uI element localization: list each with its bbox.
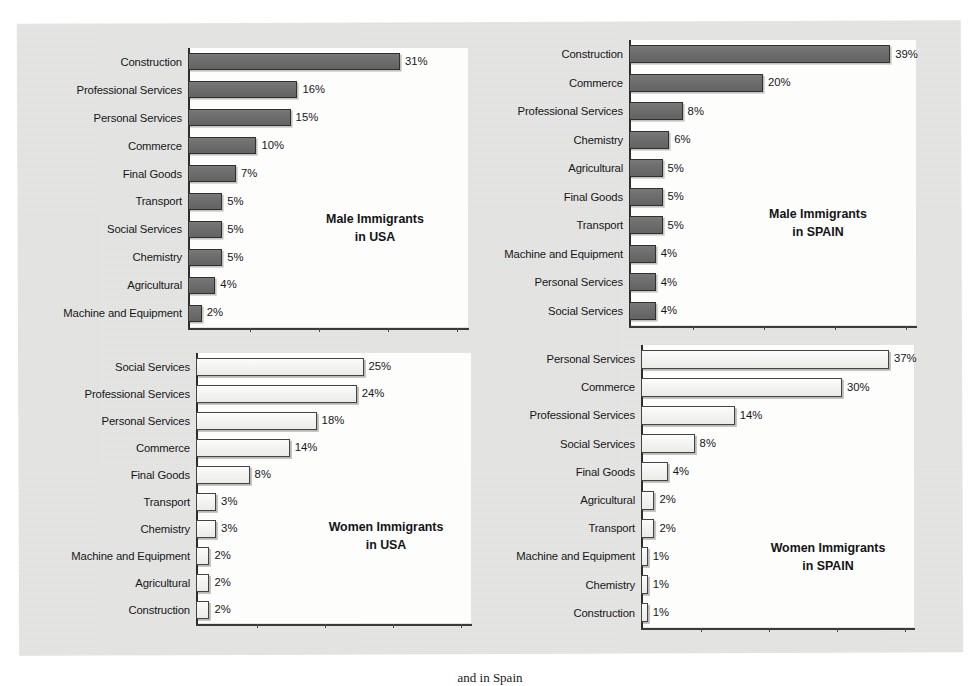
x-axis-line xyxy=(188,328,469,330)
value-label: 2% xyxy=(214,550,230,561)
bar xyxy=(188,109,291,126)
value-label: 3% xyxy=(221,496,237,507)
bar xyxy=(196,385,357,403)
annotation-line-2: in SPAIN xyxy=(743,224,893,242)
category-label: Professional Services xyxy=(50,389,190,400)
bar xyxy=(196,412,317,430)
category-label: Transport xyxy=(479,220,623,231)
bar xyxy=(629,131,669,149)
x-axis-tick xyxy=(764,326,765,330)
bar-and-value: 16% xyxy=(188,81,325,98)
bar xyxy=(641,603,648,622)
bar-row: Professional Services16% xyxy=(188,76,468,104)
bar-and-value: 2% xyxy=(188,305,223,322)
x-axis-tick xyxy=(769,628,770,632)
x-axis-tick xyxy=(835,326,836,330)
bar-and-value: 6% xyxy=(629,131,691,149)
bar xyxy=(629,245,656,263)
bar-row: Personal Services37% xyxy=(641,345,914,373)
bar-and-value: 30% xyxy=(641,378,870,397)
category-label: Personal Services xyxy=(50,113,182,124)
bar xyxy=(188,165,236,182)
chart-male-immigrants-usa: Construction31%Professional Services16%P… xyxy=(188,48,470,330)
bar xyxy=(188,277,215,294)
bar-and-value: 18% xyxy=(196,412,344,430)
category-label: Machine and Equipment xyxy=(479,249,623,260)
chart-annotation: Male Immigrants in USA xyxy=(300,211,450,247)
category-label: Professional Services xyxy=(50,85,182,96)
bar xyxy=(196,358,364,376)
value-label: 8% xyxy=(688,106,704,117)
bar xyxy=(641,547,648,566)
category-label: Social Services xyxy=(50,362,190,373)
bar-and-value: 24% xyxy=(196,385,384,403)
bar-row: Agricultural4% xyxy=(188,271,468,299)
value-label: 2% xyxy=(659,523,675,534)
bar xyxy=(629,216,663,234)
bar-and-value: 1% xyxy=(641,603,669,622)
category-label: Transport xyxy=(487,523,635,534)
bar xyxy=(188,221,222,238)
bar-and-value: 8% xyxy=(196,466,271,484)
chart-annotation: Women Immigrants in SPAIN xyxy=(745,540,911,576)
x-axis-tick xyxy=(837,628,838,632)
bar-and-value: 10% xyxy=(188,137,284,154)
bar-row: Agricultural2% xyxy=(196,569,471,596)
bar xyxy=(641,378,842,397)
bar-row: Professional Services14% xyxy=(641,401,914,429)
bar xyxy=(188,137,256,154)
value-label: 1% xyxy=(653,551,669,562)
bar xyxy=(188,81,297,98)
bar xyxy=(188,305,202,322)
bar-and-value: 14% xyxy=(196,439,317,457)
bar-and-value: 8% xyxy=(629,102,704,120)
bar xyxy=(629,74,763,92)
value-label: 8% xyxy=(700,438,716,449)
category-label: Construction xyxy=(479,49,623,60)
value-label: 20% xyxy=(768,77,791,88)
annotation-line-1: Male Immigrants xyxy=(743,206,893,224)
x-axis-tick xyxy=(693,326,694,330)
x-axis-tick xyxy=(319,328,320,332)
bar xyxy=(196,601,209,619)
value-label: 7% xyxy=(241,168,257,179)
x-axis-line xyxy=(196,624,472,626)
chart-women-immigrants-spain: Personal Services37%Commerce30%Professio… xyxy=(641,345,917,630)
value-label: 1% xyxy=(653,607,669,618)
bar-row: Final Goods8% xyxy=(196,461,471,488)
value-label: 14% xyxy=(740,410,763,421)
category-label: Personal Services xyxy=(50,416,190,427)
value-label: 5% xyxy=(227,252,243,263)
category-label: Commerce xyxy=(479,78,623,89)
value-label: 5% xyxy=(227,196,243,207)
x-axis-tick xyxy=(393,624,394,628)
chart-women-immigrants-usa: Social Services25%Professional Services2… xyxy=(196,353,474,626)
bar xyxy=(629,102,683,120)
value-label: 15% xyxy=(296,112,319,123)
category-label: Commerce xyxy=(50,443,190,454)
value-label: 6% xyxy=(674,134,690,145)
value-label: 5% xyxy=(668,220,684,231)
value-label: 4% xyxy=(220,279,236,290)
value-label: 3% xyxy=(221,523,237,534)
bar-and-value: 7% xyxy=(188,165,257,182)
chart-male-immigrants-spain: Construction39%Commerce20%Professional S… xyxy=(629,40,919,328)
bar-and-value: 8% xyxy=(641,434,716,453)
category-label: Chemistry xyxy=(50,524,190,535)
value-label: 8% xyxy=(255,469,271,480)
bar-row: Commerce14% xyxy=(196,434,471,461)
bar-and-value: 25% xyxy=(196,358,391,376)
bar-and-value: 14% xyxy=(641,406,762,425)
bar xyxy=(188,249,222,266)
x-axis-tick xyxy=(701,628,702,632)
value-label: 2% xyxy=(214,577,230,588)
value-label: 24% xyxy=(362,388,385,399)
x-axis-tick xyxy=(906,326,907,330)
bar xyxy=(196,439,290,457)
bar xyxy=(629,273,656,291)
value-label: 5% xyxy=(227,224,243,235)
bar-row: Construction39% xyxy=(629,40,916,69)
value-label: 39% xyxy=(895,49,918,60)
category-label: Agricultural xyxy=(50,578,190,589)
bar xyxy=(196,574,209,592)
